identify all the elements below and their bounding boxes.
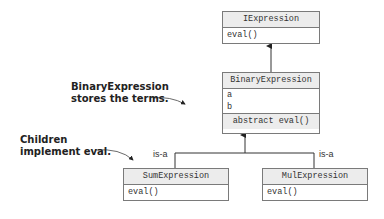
note-line: BinaryExpression bbox=[71, 81, 169, 93]
class-mul-expression: MulExpression eval() bbox=[262, 168, 368, 201]
class-field: b bbox=[223, 101, 319, 113]
class-binary-expression: BinaryExpression a b abstract eval() bbox=[222, 72, 320, 134]
binary-note: BinaryExpression stores the terms. bbox=[71, 81, 169, 105]
is-a-label-mul: is-a bbox=[319, 149, 334, 159]
children-note: Children implement eval. bbox=[20, 134, 111, 158]
class-method: abstract eval() bbox=[223, 113, 319, 129]
class-method: eval() bbox=[223, 28, 319, 42]
class-sum-expression: SumExpression eval() bbox=[123, 168, 229, 201]
class-method: eval() bbox=[124, 185, 228, 199]
class-method: eval() bbox=[263, 185, 367, 199]
class-field: a bbox=[223, 89, 319, 101]
note-line: implement eval. bbox=[20, 146, 111, 158]
class-title: IExpression bbox=[223, 12, 319, 28]
is-a-label-sum: is-a bbox=[153, 149, 168, 159]
class-title: SumExpression bbox=[124, 169, 228, 185]
note-line: Children bbox=[20, 134, 111, 146]
class-title: BinaryExpression bbox=[223, 73, 319, 89]
note-line: stores the terms. bbox=[71, 93, 169, 105]
class-iexpression: IExpression eval() bbox=[222, 11, 320, 44]
class-title: MulExpression bbox=[263, 169, 367, 185]
